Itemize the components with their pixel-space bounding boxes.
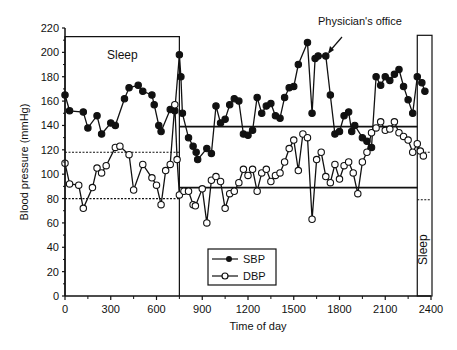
- filled-circle-icon: [226, 256, 232, 262]
- x-tick-label: 2400: [419, 303, 443, 315]
- y-tick-label: 100: [41, 168, 59, 180]
- physician-office-label: Physician's office: [318, 15, 402, 27]
- legend-dbp: DBP: [243, 270, 266, 282]
- x-tick-label: 300: [102, 303, 120, 315]
- y-tick-label: 80: [47, 193, 59, 205]
- y-axis-label: Blood pressure (mmHg): [18, 104, 30, 221]
- legend: SBP DBP: [208, 249, 276, 285]
- sleep-label-side: Sleep: [416, 234, 430, 265]
- y-tick-label: 0: [53, 290, 59, 302]
- y-tick-label: 20: [47, 266, 59, 278]
- x-tick-label: 1200: [236, 303, 260, 315]
- legend-sbp: SBP: [243, 253, 265, 265]
- y-tick-label: 180: [41, 71, 59, 83]
- x-tick-label: 900: [193, 303, 211, 315]
- y-tick-label: 160: [41, 95, 59, 107]
- y-tick-label: 220: [41, 22, 59, 34]
- x-tick-label: 1800: [327, 303, 351, 315]
- sleep-label-top: Sleep: [107, 48, 138, 62]
- y-tick-label: 40: [47, 241, 59, 253]
- open-circle-icon: [222, 273, 228, 279]
- blood-pressure-chart: 0204060801001201401601802002200300600900…: [0, 0, 457, 350]
- y-tick-label: 120: [41, 144, 59, 156]
- y-tick-label: 200: [41, 46, 59, 58]
- x-axis-label: Time of day: [229, 320, 287, 332]
- x-tick-label: 2100: [373, 303, 397, 315]
- y-tick-label: 60: [47, 217, 59, 229]
- x-tick-label: 600: [147, 303, 165, 315]
- y-tick-label: 140: [41, 119, 59, 131]
- x-tick-label: 1500: [282, 303, 306, 315]
- x-tick-label: 0: [62, 303, 68, 315]
